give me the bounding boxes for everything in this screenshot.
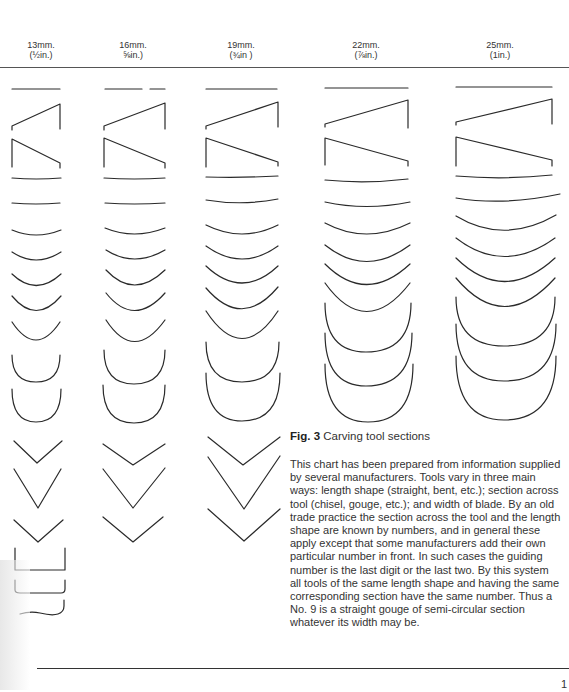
- flat-chisel-row: [12, 87, 552, 89]
- page-edge-shadow: [0, 560, 30, 690]
- page-number: 1: [561, 678, 567, 690]
- skew-chisel-row-b: [12, 137, 552, 168]
- figure-caption: Fig. 3 Carving tool sections: [290, 430, 430, 442]
- body-text: This chart has been prepared from inform…: [290, 458, 562, 630]
- v-tools: [14, 437, 280, 542]
- footer-rule: [37, 668, 569, 669]
- body-paragraph: This chart has been prepared from inform…: [290, 458, 562, 630]
- figure-title: Carving tool sections: [323, 430, 430, 442]
- figure-label: Fig. 3: [290, 430, 320, 442]
- gouge-sweeps: [12, 175, 560, 423]
- skew-chisel-row-a: [12, 99, 552, 130]
